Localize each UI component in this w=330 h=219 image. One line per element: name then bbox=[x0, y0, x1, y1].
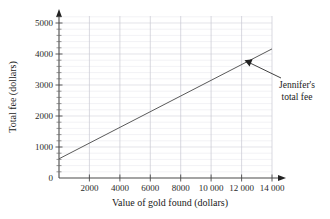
y-tick-label-3000: 3000 bbox=[35, 80, 54, 90]
chart-page: 0 1000 2000 3000 4000 5000 2000 4000 600… bbox=[0, 0, 330, 219]
x-tick-label-14000: 14 000 bbox=[260, 183, 285, 193]
x-tick-labels: 2000 4000 6000 8000 10 000 12 000 14 000 bbox=[80, 183, 284, 193]
y-tick-label-2000: 2000 bbox=[35, 111, 54, 121]
y-tick-label-4000: 4000 bbox=[35, 49, 54, 59]
y-tick-label-0: 0 bbox=[49, 173, 54, 183]
x-tick-label-4000: 4000 bbox=[111, 183, 130, 193]
grid-horizontal-minor bbox=[59, 17, 272, 172]
x-tick-label-2000: 2000 bbox=[80, 183, 99, 193]
x-tick-label-12000: 12 000 bbox=[229, 183, 254, 193]
annotation-leader bbox=[245, 59, 282, 78]
y-axis-title: Total fee (dollars) bbox=[7, 61, 19, 133]
x-axis bbox=[59, 175, 286, 181]
grid-vertical bbox=[89, 16, 272, 178]
annotation-line-1: Jennifer's bbox=[279, 80, 315, 90]
x-axis-title: Value of gold found (dollars) bbox=[112, 197, 228, 209]
y-axis bbox=[56, 9, 62, 178]
annotation-jennifers-total-fee: Jennifer's total fee bbox=[279, 80, 315, 102]
y-tick-labels: 0 1000 2000 3000 4000 5000 bbox=[35, 18, 54, 183]
y-tick-label-1000: 1000 bbox=[35, 142, 54, 152]
x-tick-label-6000: 6000 bbox=[141, 183, 160, 193]
x-tick-label-10000: 10 000 bbox=[199, 183, 224, 193]
y-tick-label-5000: 5000 bbox=[35, 18, 54, 28]
x-tick-label-8000: 8000 bbox=[172, 183, 191, 193]
annotation-line-2: total fee bbox=[282, 92, 313, 102]
line-chart: 0 1000 2000 3000 4000 5000 2000 4000 600… bbox=[0, 0, 330, 219]
